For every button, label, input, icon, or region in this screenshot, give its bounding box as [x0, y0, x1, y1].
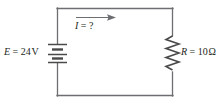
resistor-symbol — [166, 36, 179, 70]
current-label: I = ? — [75, 21, 93, 31]
current-value: ? — [89, 20, 93, 31]
resistance-value: 10 — [198, 46, 208, 57]
emf-label: E = 24 V — [4, 47, 39, 57]
resistor-zigzag — [166, 36, 179, 70]
emf-value: 24 — [21, 46, 31, 57]
battery-symbol — [48, 45, 67, 63]
resistance-label: R = 10 Ω — [181, 47, 216, 57]
resistance-unit: Ω — [209, 46, 216, 57]
resistance-equals: = — [187, 46, 198, 57]
emf-equals: = — [10, 46, 21, 57]
current-equals: = — [78, 20, 89, 31]
emf-unit: V — [32, 46, 39, 57]
dc-circuit-diagram: E = 24 V R = 10 Ω I = ? — [0, 0, 224, 106]
